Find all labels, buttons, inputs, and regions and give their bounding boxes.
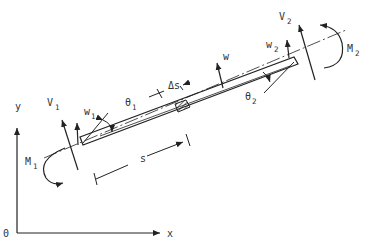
svg-text:w: w <box>223 51 230 62</box>
svg-text:θ: θ <box>245 91 251 102</box>
s-dimension: s <box>94 134 190 185</box>
displacement-w: w <box>217 51 230 88</box>
ds-dimension: Δs <box>149 80 190 98</box>
svg-text:θ: θ <box>125 97 131 108</box>
moment-m2: M 2 <box>320 25 360 68</box>
svg-text:2: 2 <box>287 17 292 26</box>
svg-text:w: w <box>266 39 273 50</box>
svg-text:1: 1 <box>91 112 96 121</box>
displacement-w2: w 2 <box>266 39 289 58</box>
svg-text:M: M <box>347 43 353 54</box>
svg-text:Δs: Δs <box>168 80 180 91</box>
origin-label: 0 <box>3 228 9 239</box>
svg-text:1: 1 <box>33 162 38 171</box>
shear-force-v1: V 1 <box>47 97 78 170</box>
svg-text:1: 1 <box>55 103 60 112</box>
moment-m1: M 1 <box>25 148 65 184</box>
svg-text:1: 1 <box>132 103 137 112</box>
svg-text:V: V <box>47 97 53 108</box>
svg-text:s: s <box>140 153 146 164</box>
coordinate-axes: y x 0 <box>3 101 173 239</box>
x-axis-label: x <box>167 228 173 239</box>
beam-element <box>80 57 298 145</box>
svg-text:M: M <box>25 156 31 167</box>
svg-text:2: 2 <box>355 49 360 58</box>
beam-diagram: y x 0 V 1 w 1 θ 1 M 1 Δs <box>0 0 380 252</box>
y-axis-label: y <box>15 101 21 112</box>
svg-text:2: 2 <box>274 45 279 54</box>
svg-text:V: V <box>279 11 285 22</box>
svg-text:w: w <box>84 106 91 117</box>
svg-text:2: 2 <box>252 97 257 106</box>
